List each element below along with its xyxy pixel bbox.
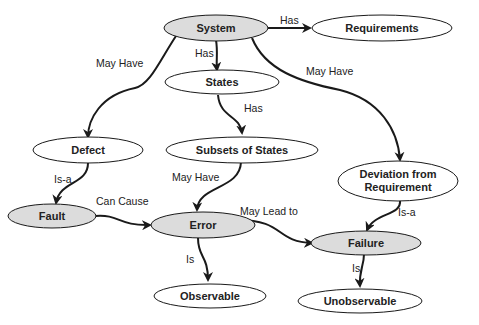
edge-label-is-a: Is-a	[398, 206, 416, 218]
edge-label-has: Has	[244, 102, 263, 114]
svg-text:Observable: Observable	[180, 290, 240, 302]
node-observable: Observable	[154, 284, 266, 308]
node-deviation-from-requirement: Deviation from Requirement	[338, 161, 458, 201]
edge-error-observable: Is	[186, 238, 208, 280]
edge-failure-unobservable: Is	[352, 254, 364, 286]
edge-system-requirements: Has	[267, 14, 310, 28]
edge-label-has: Has	[195, 47, 214, 59]
edge-states-subsets: Has	[218, 95, 263, 133]
svg-text:Deviation from: Deviation from	[359, 168, 436, 180]
edge-fault-error: Can Cause	[95, 195, 150, 225]
svg-text:Failure: Failure	[348, 237, 384, 249]
edge-label-may-have: May Have	[172, 171, 219, 183]
node-defect: Defect	[33, 137, 143, 163]
node-unobservable: Unobservable	[298, 289, 422, 313]
node-requirements: Requirements	[312, 15, 452, 41]
edge-label-may-lead-to: May Lead to	[240, 205, 298, 217]
svg-text:Unobservable: Unobservable	[324, 295, 397, 307]
node-error: Error	[151, 212, 255, 238]
svg-text:System: System	[196, 22, 235, 34]
edge-defect-fault: Is-a	[54, 163, 88, 203]
node-system: System	[164, 15, 268, 41]
svg-text:Defect: Defect	[71, 144, 105, 156]
svg-text:Requirement: Requirement	[364, 181, 432, 193]
edge-label-may-have: May Have	[306, 65, 353, 77]
svg-text:Fault: Fault	[39, 210, 66, 222]
node-states: States	[165, 70, 279, 94]
node-failure: Failure	[311, 231, 421, 255]
edge-label-may-have: May Have	[96, 57, 143, 69]
svg-text:Error: Error	[190, 219, 218, 231]
edge-label-is-a: Is-a	[54, 173, 72, 185]
concept-map-diagram: Has Has May Have May Have Has Is-a May H…	[0, 0, 479, 325]
edge-subsets-error: May Have	[172, 162, 241, 210]
edge-system-states: Has	[195, 40, 217, 70]
svg-text:Requirements: Requirements	[345, 22, 418, 34]
edge-label-can-cause: Can Cause	[96, 195, 149, 207]
edge-deviation-failure: Is-a	[367, 200, 416, 230]
node-fault: Fault	[8, 204, 96, 228]
edge-label-has: Has	[280, 14, 299, 26]
edge-label-is: Is	[186, 253, 194, 265]
edge-system-defect: May Have	[88, 36, 176, 137]
edge-label-is: Is	[352, 262, 360, 274]
node-subsets-of-states: Subsets of States	[166, 137, 318, 163]
svg-text:States: States	[205, 76, 238, 88]
svg-text:Subsets of States: Subsets of States	[196, 144, 288, 156]
